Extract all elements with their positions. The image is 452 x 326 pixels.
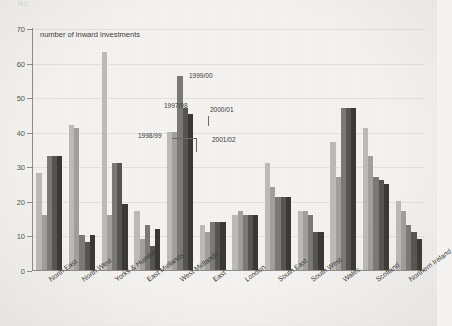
y-axis-tick-label: 40	[17, 128, 25, 137]
bar	[253, 215, 258, 270]
bar	[318, 232, 323, 270]
x-axis-label-cell: North East	[33, 274, 66, 326]
x-axis-label-cell: Wales	[327, 274, 360, 326]
bar	[220, 222, 225, 270]
scan-header-fragment: No.	[0, 0, 437, 12]
bar	[417, 239, 422, 270]
x-axis-label-cell: West Midlands	[164, 274, 197, 326]
bar-group	[392, 28, 425, 270]
bar-groups	[33, 28, 425, 270]
y-axis-tick-label: 60	[17, 59, 25, 68]
x-axis-label-cell: South West	[294, 274, 327, 326]
plot-area: number of inward investments 01020304050…	[32, 28, 425, 271]
series-annotation-label: 1999/00	[189, 72, 213, 79]
x-axis-label-cell: London	[229, 274, 262, 326]
y-axis-tick-label: 30	[17, 163, 25, 172]
y-axis-tick-label: 0	[21, 267, 25, 276]
x-axis-label-cell: Yorks & Humber	[98, 274, 131, 326]
bar-chart: number of inward investments 01020304050…	[0, 12, 437, 326]
x-axis-label: East	[211, 269, 226, 283]
y-axis-tick	[27, 133, 32, 134]
series-annotation-label: 2001/02	[212, 136, 236, 143]
bar	[351, 108, 356, 270]
y-axis-tick	[27, 236, 32, 237]
y-axis-tick-label: 20	[17, 197, 25, 206]
bar	[384, 184, 389, 270]
x-axis-label-cell: Northern Ireland	[392, 274, 425, 326]
bar	[286, 197, 291, 270]
x-axis-label-cell: South East	[262, 274, 295, 326]
series-annotation-label: 2000/01	[210, 106, 234, 113]
y-axis-tick	[27, 64, 32, 65]
annotation-leader-line	[196, 138, 197, 152]
y-axis-tick	[27, 167, 32, 168]
bar-group	[98, 28, 131, 270]
y-axis-tick-label: 10	[17, 232, 25, 241]
x-axis-label-cell: Scotland	[360, 274, 393, 326]
y-axis-tick-label: 70	[17, 25, 25, 34]
series-annotation-label: 1997/98	[164, 102, 188, 109]
series-annotation-label: 1998/99	[138, 132, 162, 139]
x-axis-label-cell: East	[196, 274, 229, 326]
bar-group	[360, 28, 393, 270]
bar-group	[131, 28, 164, 270]
bar-group	[262, 28, 295, 270]
bar-group	[196, 28, 229, 270]
bar-group	[66, 28, 99, 270]
y-axis-tick	[27, 202, 32, 203]
bar	[57, 156, 62, 270]
bar-group	[327, 28, 360, 270]
bar-group	[33, 28, 66, 270]
bar-group	[294, 28, 327, 270]
annotation-leader-line	[208, 116, 209, 126]
x-axis-labels: North EastNorth WestYorks & HumberEast M…	[33, 274, 425, 326]
bar	[90, 235, 95, 270]
y-axis-tick-label: 50	[17, 94, 25, 103]
bar-group	[164, 28, 197, 270]
bar-group	[229, 28, 262, 270]
y-axis-tick	[27, 98, 32, 99]
x-axis-label-cell: North West	[66, 274, 99, 326]
bar	[122, 204, 127, 270]
y-axis-tick	[27, 271, 32, 272]
x-axis-label-cell: East Midlands	[131, 274, 164, 326]
annotation-leader-line	[172, 138, 196, 139]
y-axis-tick	[27, 29, 32, 30]
